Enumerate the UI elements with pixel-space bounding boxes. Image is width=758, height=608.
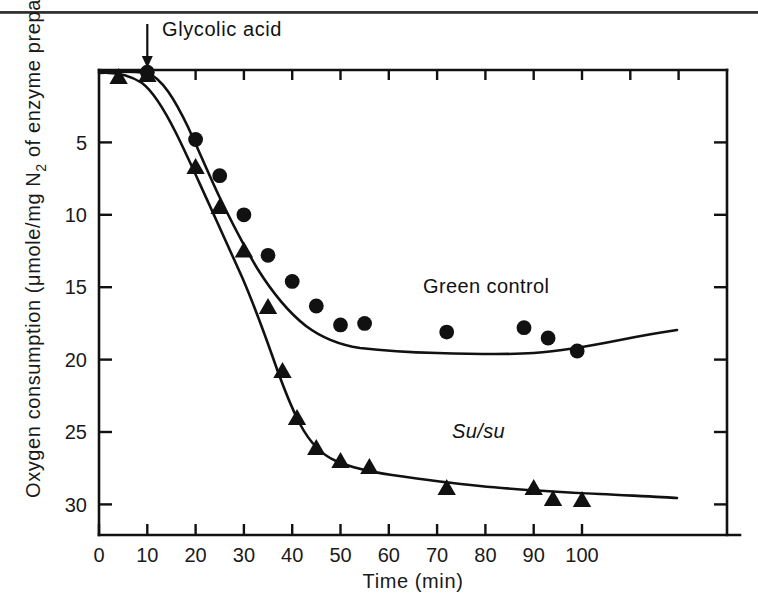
y-tick-labels: 5 10 15 20 25 30 xyxy=(65,132,87,516)
series-label-su-su: Su/su xyxy=(452,420,505,442)
data-point-marker xyxy=(309,299,324,314)
right-axis-ticks xyxy=(714,142,727,504)
y-axis-ticks xyxy=(99,142,112,504)
data-point-marker xyxy=(357,316,372,331)
data-point-marker xyxy=(285,274,300,289)
series-green-control-markers xyxy=(140,65,585,359)
x-tick-label: 100 xyxy=(565,544,598,566)
x-tick-label: 0 xyxy=(93,544,104,566)
data-point-marker xyxy=(259,298,277,314)
top-axis-ticks xyxy=(147,70,678,80)
y-axis-title-mid: mole/mg N xyxy=(22,172,44,274)
y-tick-label: 10 xyxy=(65,204,87,226)
y-tick-label: 20 xyxy=(65,349,87,371)
series-su-su: Su/su xyxy=(99,66,677,507)
svg-text:Oxygen consumption (μmole/mg N: Oxygen consumption (μmole/mg N2 of enzym… xyxy=(22,0,49,498)
x-tick-label: 30 xyxy=(233,544,255,566)
y-tick-label: 5 xyxy=(76,132,87,154)
data-point-marker xyxy=(517,320,532,335)
data-point-marker xyxy=(541,331,556,346)
y-axis-title: Oxygen consumption (μmole/mg N2 of enzym… xyxy=(22,0,49,498)
series-label-green-control: Green control xyxy=(423,275,549,297)
series-green-control: Green control xyxy=(99,65,677,359)
data-point-marker xyxy=(212,168,227,183)
series-su-su-line xyxy=(99,73,677,498)
data-point-marker xyxy=(237,207,252,222)
data-point-marker xyxy=(439,325,454,340)
x-tick-label: 80 xyxy=(474,544,496,566)
y-axis-title-mu: μ xyxy=(22,274,44,286)
oxygen-consumption-chart: 0 10 20 30 40 50 60 70 80 90 100 5 10 15… xyxy=(0,0,758,608)
figure-page: 0 10 20 30 40 50 60 70 80 90 100 5 10 15… xyxy=(0,0,758,608)
x-tick-label: 60 xyxy=(378,544,400,566)
y-tick-label: 15 xyxy=(65,276,87,298)
x-tick-labels: 0 10 20 30 40 50 60 70 80 90 100 xyxy=(93,544,598,566)
x-axis-ticks xyxy=(99,524,582,535)
x-tick-label: 90 xyxy=(523,544,545,566)
x-tick-label: 10 xyxy=(136,544,158,566)
x-tick-label: 50 xyxy=(329,544,351,566)
data-point-marker xyxy=(235,242,253,258)
x-tick-label: 20 xyxy=(184,544,206,566)
y-tick-label: 30 xyxy=(65,494,87,516)
y-axis-title-prefix: Oxygen consumption ( xyxy=(22,286,44,498)
data-point-marker xyxy=(188,132,203,147)
x-tick-label: 70 xyxy=(426,544,448,566)
data-point-marker xyxy=(288,409,306,425)
data-point-marker xyxy=(525,479,543,495)
data-point-marker xyxy=(261,248,276,263)
x-axis-title: Time (min) xyxy=(363,570,464,592)
data-point-marker xyxy=(211,198,229,214)
glycolic-acid-annotation: Glycolic acid xyxy=(142,18,282,68)
glycolic-acid-label: Glycolic acid xyxy=(162,18,282,40)
y-tick-label: 25 xyxy=(65,421,87,443)
data-point-marker xyxy=(570,344,585,359)
series-green-control-line xyxy=(99,72,677,355)
y-axis-title-subscript: 2 xyxy=(33,163,49,171)
data-point-marker xyxy=(360,458,378,474)
x-tick-label: 40 xyxy=(281,544,303,566)
data-point-marker xyxy=(333,318,348,333)
y-axis-title-suffix: of enzyme preparation) xyxy=(22,0,44,163)
